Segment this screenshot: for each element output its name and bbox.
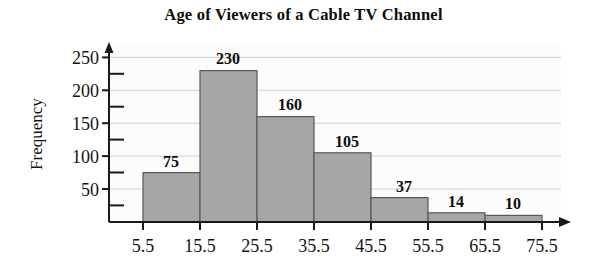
bar-label-2: 230	[216, 50, 240, 67]
chart-figure: Age of Viewers of a Cable TV Channel 75 …	[0, 0, 607, 264]
bar-25.5-35.5[interactable]	[257, 117, 314, 222]
y-tick-label-200: 200	[72, 81, 99, 101]
bar-55.5-65.5[interactable]	[428, 213, 485, 222]
x-axis-arrow-icon	[559, 217, 571, 227]
bar-35.5-45.5[interactable]	[314, 153, 371, 222]
bar-5.5-15.5[interactable]	[143, 173, 200, 222]
x-tick-label-15.5: 15.5	[184, 236, 216, 256]
y-tick-label-250: 250	[72, 48, 99, 68]
x-tick-label-75.5: 75.5	[526, 236, 558, 256]
x-tick-label-45.5: 45.5	[355, 236, 387, 256]
bar-label-3: 160	[278, 96, 302, 113]
bar-label-4: 105	[335, 133, 359, 150]
x-tick-label-25.5: 25.5	[241, 236, 273, 256]
bar-label-7: 10	[505, 195, 521, 212]
bar-15.5-25.5[interactable]	[200, 71, 257, 222]
y-tick-label-50: 50	[81, 180, 99, 200]
y-major-ticks	[102, 57, 109, 189]
bar-label-5: 37	[396, 178, 412, 195]
x-tick-label-5.5: 5.5	[132, 236, 155, 256]
bar-45.5-55.5[interactable]	[371, 198, 428, 222]
x-tick-label-35.5: 35.5	[298, 236, 330, 256]
y-axis-title: Frequency	[27, 98, 46, 170]
x-tick-labels: 5.5 15.5 25.5 35.5 45.5 55.5 65.5 75.5	[132, 236, 558, 256]
bar-label-6: 14	[448, 193, 464, 210]
x-tick-label-55.5: 55.5	[412, 236, 444, 256]
x-tick-label-65.5: 65.5	[469, 236, 501, 256]
y-tick-label-100: 100	[72, 147, 99, 167]
y-tick-label-150: 150	[72, 114, 99, 134]
histogram-plot: 75 230 160 105 37 14 10	[0, 0, 607, 264]
bar-label-1: 75	[163, 153, 179, 170]
y-tick-labels: 250 200 150 100 50	[72, 48, 99, 200]
x-ticks	[143, 222, 542, 230]
